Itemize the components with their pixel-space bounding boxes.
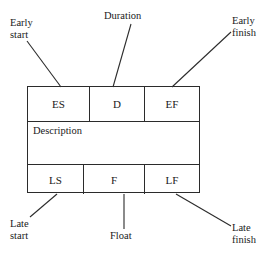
leader-line-early-finish <box>172 32 231 87</box>
callout-label-early-start: Early start <box>10 17 33 40</box>
leader-line-late-start <box>30 194 57 217</box>
node-top-row: ES D EF <box>28 87 199 122</box>
node-cell-late-finish: LF <box>145 165 199 194</box>
callout-label-duration: Duration <box>104 10 141 22</box>
node-middle-row: Description <box>28 122 199 165</box>
node-cell-early-start: ES <box>28 87 90 121</box>
node-bottom-row: LS F LF <box>28 165 199 194</box>
node-cell-late-start: LS <box>28 165 84 194</box>
leader-line-duration <box>113 24 131 87</box>
node-cell-early-finish: EF <box>145 87 199 121</box>
leader-line-late-finish <box>176 194 231 226</box>
node-cell-duration: D <box>90 87 145 121</box>
activity-node-box: ES D EF Description LS F LF <box>27 86 200 193</box>
leader-line-early-start <box>27 41 61 87</box>
node-cell-description: Description <box>28 122 199 164</box>
callout-label-late-finish: Late finish <box>232 222 256 245</box>
callout-label-early-finish: Early finish <box>232 15 256 38</box>
node-cell-float: F <box>84 165 145 194</box>
diagram-canvas: ES D EF Description LS F LF Early start … <box>0 0 276 254</box>
callout-label-late-start: Late start <box>10 218 29 241</box>
callout-label-float: Float <box>110 230 132 242</box>
